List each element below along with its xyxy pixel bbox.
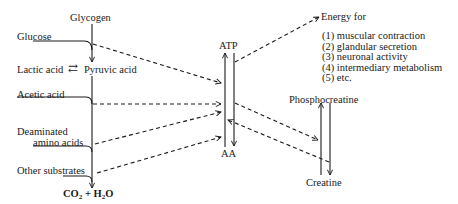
other-substrates-to-atp-dashed-arrow — [97, 137, 221, 173]
co2-text: CO — [63, 188, 79, 199]
glucose-feed-line — [33, 41, 92, 50]
o-text: O — [105, 188, 113, 199]
atp-to-energy-dashed-arrow — [235, 17, 319, 62]
energy-uses-list: (1) muscular contraction (2) glandular s… — [322, 31, 442, 84]
deaminated-label-line1: Deaminated — [17, 126, 68, 137]
other-substrates-feed-line — [63, 176, 92, 182]
creatine-label: Creatine — [306, 177, 342, 188]
atp-to-phosphocreatine-dashed-arrow — [235, 103, 318, 140]
other-substrates-label: Other substrates — [17, 165, 85, 176]
glucose-label: Glucose — [17, 31, 51, 42]
equilibrium-arrow-icon: ⇄ — [68, 63, 78, 74]
energy-use-item: (5) etc. — [322, 73, 442, 84]
energy-for-label: Energy for — [321, 11, 366, 22]
lactic-acid-label: Lactic acid — [17, 64, 63, 75]
aa-label: AA — [221, 148, 236, 159]
deaminated-label-line2: amino acids — [33, 137, 83, 148]
plus-h-text: + H — [82, 188, 101, 199]
phosphocreatine-label: Phosphocreatine — [289, 94, 358, 105]
co2-h2o-label: CO2 + H2O — [63, 188, 113, 203]
atp-label: ATP — [219, 40, 238, 51]
glycogen-label: Glycogen — [70, 12, 111, 23]
amino-acids-to-atp-dashed-arrow — [95, 112, 221, 144]
pyruvic-acid-label: Pyruvic acid — [84, 64, 137, 75]
phosphocreatine-to-atp-dashed-arrow — [228, 120, 329, 162]
metabolism-energy-diagram: Glycogen Glucose Lactic acid ⇄ Pyruvic a… — [0, 0, 458, 204]
acetic-acid-label: Acetic acid — [17, 89, 65, 100]
energy-use-item: (1) muscular contraction — [322, 31, 442, 42]
